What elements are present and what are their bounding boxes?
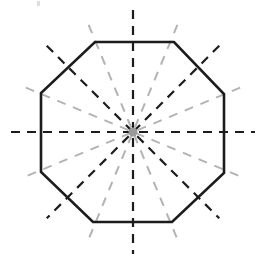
figure-canvas: [0, 0, 264, 263]
scan-speck-artifact: [37, 1, 40, 6]
octagon-symmetry-figure: [0, 0, 264, 263]
center-point-dot: [129, 128, 138, 137]
